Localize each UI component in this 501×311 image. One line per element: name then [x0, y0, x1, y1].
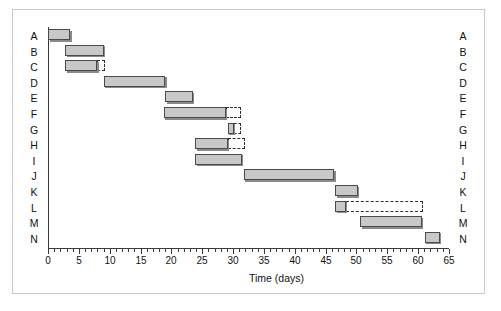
x-tick-major [264, 249, 265, 254]
row-label-a: A [26, 30, 42, 42]
gantt-bar-f [164, 107, 226, 118]
x-tick-major [79, 249, 80, 254]
x-tick-minor [430, 249, 431, 252]
x-tick-major [48, 249, 49, 254]
x-tick-label: 25 [190, 255, 214, 267]
x-tick-minor [400, 249, 401, 252]
x-tick-minor [282, 249, 283, 252]
x-tick-minor [344, 249, 345, 252]
x-tick-minor [289, 249, 290, 252]
x-tick-minor [375, 249, 376, 252]
x-tick-minor [443, 249, 444, 252]
x-tick-minor [159, 249, 160, 252]
x-tick-minor [227, 249, 228, 252]
x-tick-minor [67, 249, 68, 252]
x-axis-title-text: Time (days) [249, 272, 304, 284]
row-label-f: F [455, 108, 471, 120]
x-tick-label: 45 [314, 255, 338, 267]
x-tick-major [171, 249, 172, 254]
x-tick-major [110, 249, 111, 254]
x-axis-line [48, 248, 449, 249]
x-tick-minor [369, 249, 370, 252]
row-label-g: G [26, 124, 42, 136]
x-tick-label: 35 [252, 255, 276, 267]
x-tick-minor [73, 249, 74, 252]
x-tick-label: 50 [344, 255, 368, 267]
x-tick-minor [276, 249, 277, 252]
x-axis-title: Time (days) [0, 272, 501, 284]
gantt-bar-e [165, 91, 193, 102]
x-tick-minor [85, 249, 86, 252]
x-tick-minor [97, 249, 98, 252]
row-label-f: F [26, 108, 42, 120]
row-label-e: E [26, 92, 42, 104]
x-tick-label: 0 [36, 255, 60, 267]
gantt-bar-d [104, 76, 166, 87]
x-tick-major [387, 249, 388, 254]
row-label-m: M [26, 217, 42, 229]
row-label-h: H [26, 139, 42, 151]
x-tick-label: 30 [221, 255, 245, 267]
x-tick-minor [184, 249, 185, 252]
x-tick-minor [363, 249, 364, 252]
x-tick-label: 40 [283, 255, 307, 267]
row-label-l: L [455, 202, 471, 214]
x-tick-minor [245, 249, 246, 252]
x-tick-major [449, 249, 450, 254]
x-tick-minor [178, 249, 179, 252]
x-tick-minor [350, 249, 351, 252]
x-tick-minor [122, 249, 123, 252]
x-tick-minor [165, 249, 166, 252]
gantt-chart-figure: 05101520253035404550556065 Time (days) A… [0, 0, 501, 311]
gantt-bar-g [228, 123, 234, 134]
row-label-g: G [455, 124, 471, 136]
row-label-j: J [26, 170, 42, 182]
row-label-n: N [455, 233, 471, 245]
row-label-i: I [455, 155, 471, 167]
row-label-h: H [455, 139, 471, 151]
gantt-float-f [226, 107, 241, 118]
x-tick-minor [270, 249, 271, 252]
gantt-bar-m [360, 216, 422, 227]
x-tick-major [295, 249, 296, 254]
gantt-bar-j [244, 169, 335, 180]
x-tick-label: 65 [437, 255, 461, 267]
y-axis-line [48, 27, 49, 249]
x-tick-major [418, 249, 419, 254]
x-tick-major [326, 249, 327, 254]
x-tick-label: 55 [375, 255, 399, 267]
x-tick-minor [313, 249, 314, 252]
gantt-bar-k [335, 185, 357, 196]
row-label-j: J [455, 170, 471, 182]
x-tick-minor [104, 249, 105, 252]
row-label-d: D [26, 77, 42, 89]
x-tick-label: 20 [159, 255, 183, 267]
row-label-b: B [26, 46, 42, 58]
x-tick-label: 15 [129, 255, 153, 267]
x-tick-minor [437, 249, 438, 252]
x-tick-label: 5 [67, 255, 91, 267]
x-tick-minor [319, 249, 320, 252]
x-tick-minor [215, 249, 216, 252]
row-label-m: M [455, 217, 471, 229]
x-tick-minor [412, 249, 413, 252]
x-tick-minor [128, 249, 129, 252]
x-tick-minor [60, 249, 61, 252]
row-label-a: A [455, 30, 471, 42]
row-label-n: N [26, 233, 42, 245]
row-label-l: L [26, 202, 42, 214]
x-tick-minor [406, 249, 407, 252]
gantt-bar-a [48, 29, 70, 40]
x-tick-minor [332, 249, 333, 252]
x-tick-minor [239, 249, 240, 252]
x-tick-minor [147, 249, 148, 252]
gantt-bar-c [65, 60, 97, 71]
gantt-bar-n [425, 232, 440, 243]
x-tick-major [356, 249, 357, 254]
row-label-c: C [26, 61, 42, 73]
x-tick-minor [301, 249, 302, 252]
gantt-bar-i [195, 154, 241, 165]
gantt-bar-h [195, 138, 227, 149]
x-tick-minor [208, 249, 209, 252]
x-tick-minor [54, 249, 55, 252]
